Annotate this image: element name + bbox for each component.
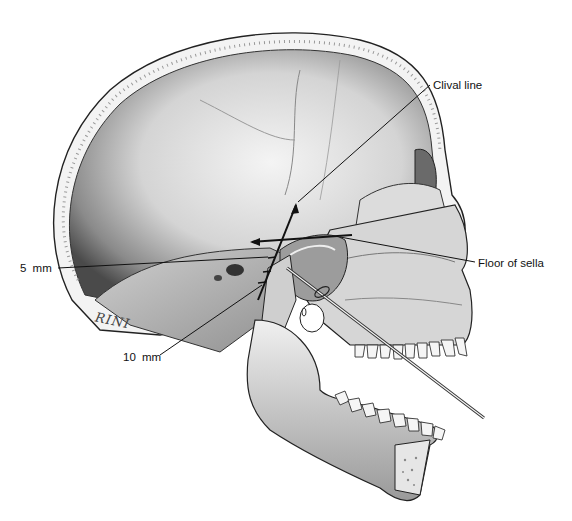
foramen [226,264,244,276]
label-clival-line: Clival line [433,80,482,92]
label-10mm: 10 mm [123,352,161,364]
label-floor-of-sella: Floor of sella [478,258,544,270]
label-5mm: 5 mm [20,263,52,275]
